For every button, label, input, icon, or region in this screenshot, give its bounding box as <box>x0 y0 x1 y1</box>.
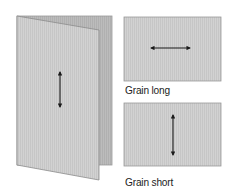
grain-long-panel <box>124 17 221 81</box>
folded-card <box>17 16 112 180</box>
grain-diagram <box>0 0 232 192</box>
grain-short-label: Grain short <box>125 176 173 188</box>
card-front-panel <box>17 16 99 180</box>
grain-long-label: Grain long <box>125 84 170 96</box>
grain-short-panel <box>124 103 221 166</box>
